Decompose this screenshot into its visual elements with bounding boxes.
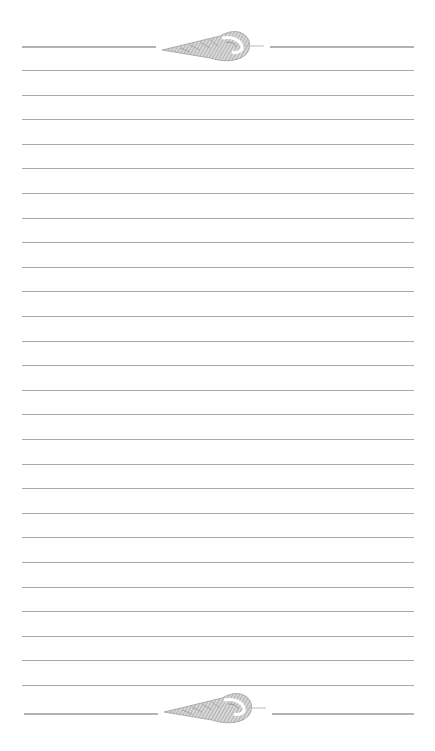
ruled-line [22, 537, 414, 538]
ruled-line [22, 660, 414, 661]
ruled-line [22, 341, 414, 342]
ruled-line [22, 218, 414, 219]
ruled-line [22, 144, 414, 145]
top-border-right [270, 46, 414, 48]
ruled-line [22, 464, 414, 465]
ruled-line [22, 291, 414, 292]
seashell-icon [160, 28, 270, 68]
top-border-left [22, 46, 156, 48]
ruled-line [22, 95, 414, 96]
ruled-line [22, 587, 414, 588]
lined-paper [0, 0, 435, 751]
ruled-line [22, 390, 414, 391]
ruled-line [22, 267, 414, 268]
ruled-line [22, 119, 414, 120]
ruled-line [22, 611, 414, 612]
ruled-line [22, 414, 414, 415]
ruled-line [22, 513, 414, 514]
ruled-line [22, 439, 414, 440]
ruled-line [22, 193, 414, 194]
ruled-line [22, 562, 414, 563]
ruled-line [22, 365, 414, 366]
ruled-line [22, 488, 414, 489]
ruled-line [22, 242, 414, 243]
ruled-line [22, 636, 414, 637]
ruled-line [22, 168, 414, 169]
ruled-line [22, 685, 414, 686]
ruled-line [22, 316, 414, 317]
seashell-icon [162, 690, 272, 730]
ruled-line [22, 70, 414, 71]
bottom-border-right [272, 713, 414, 715]
bottom-border-left [24, 713, 158, 715]
